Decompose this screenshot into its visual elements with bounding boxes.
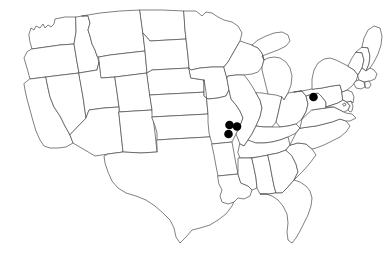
occurrence-dot	[224, 130, 233, 139]
state-north-dakota	[140, 10, 186, 41]
map-canvas	[0, 0, 387, 255]
state-massachusetts	[358, 68, 377, 82]
state-kansas	[150, 92, 208, 117]
occurrence-dot	[309, 93, 318, 102]
us-distribution-map	[0, 0, 387, 255]
state-colorado	[115, 73, 152, 112]
occurrence-dot	[233, 122, 242, 131]
state-outlines-layer	[24, 10, 382, 243]
state-district-of-columbia	[343, 103, 346, 106]
state-new-mexico	[119, 110, 157, 153]
occurrence-dot	[225, 121, 234, 130]
state-rhode-island	[365, 81, 371, 88]
